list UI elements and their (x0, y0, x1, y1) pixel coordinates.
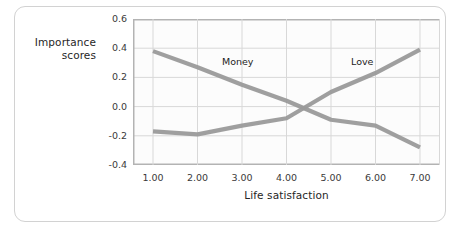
x-tick-label: 5.00 (311, 172, 351, 183)
y-tick-label: -0.4 (93, 159, 127, 170)
x-tick-label: 1.00 (133, 172, 173, 183)
x-tick-label: 6.00 (355, 172, 395, 183)
y-tick-label: 0.0 (93, 101, 127, 112)
y-tick-label: -0.2 (93, 130, 127, 141)
series-label-love: Love (351, 56, 373, 67)
x-tick-label: 2.00 (178, 172, 218, 183)
x-tick-label: 7.00 (400, 172, 440, 183)
chart-canvas (133, 19, 440, 165)
chart-figure: Importance scores Life satisfaction Mone… (0, 0, 460, 230)
y-tick-label: 0.6 (93, 13, 127, 24)
y-tick-label: 0.2 (93, 71, 127, 82)
x-axis-label: Life satisfaction (133, 189, 440, 201)
plot-area (133, 19, 440, 165)
series-label-money: Money (222, 56, 254, 67)
y-tick-label: 0.4 (93, 42, 127, 53)
y-axis-label: Importance scores (22, 36, 96, 61)
x-tick-label: 3.00 (222, 172, 262, 183)
x-tick-label: 4.00 (267, 172, 307, 183)
